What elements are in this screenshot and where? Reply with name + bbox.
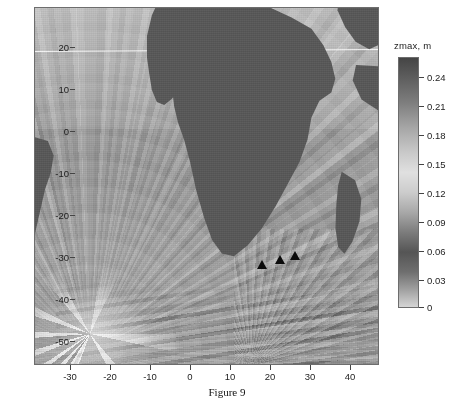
colorbar-tick-label: 0 xyxy=(427,302,432,313)
y-tick-label: 10 xyxy=(58,84,69,95)
colorbar-title: zmax, m xyxy=(394,40,431,51)
colorbar-tick-label: 0.18 xyxy=(427,130,446,141)
raster-grain-overlay xyxy=(35,8,378,364)
x-tick-label: 30 xyxy=(305,371,316,382)
y-tick-label: -30 xyxy=(55,252,69,263)
x-tick-label: 40 xyxy=(345,371,356,382)
x-tick-label: 20 xyxy=(265,371,276,382)
x-tick-label: 0 xyxy=(187,371,192,382)
station-marker-2 xyxy=(275,255,285,264)
map-plot-area xyxy=(34,7,379,365)
colorbar-tick-label: 0.24 xyxy=(427,72,446,83)
colorbar-tick-label: 0.21 xyxy=(427,101,446,112)
colorbar-tick-label: 0.12 xyxy=(427,188,446,199)
station-marker-1 xyxy=(257,260,267,269)
y-tick-label: 20 xyxy=(58,42,69,53)
x-tick-label: -20 xyxy=(103,371,117,382)
figure-caption: Figure 9 xyxy=(0,386,454,398)
y-tick-label: 0 xyxy=(64,126,69,137)
colorbar-gradient xyxy=(398,57,419,308)
colorbar-tick-label: 0.15 xyxy=(427,159,446,170)
figure-9-container: 20 10 0 -10 -20 -30 -40 -50 -30 -20 -10 … xyxy=(0,0,454,405)
x-tick-label: 10 xyxy=(225,371,236,382)
x-tick-label: -10 xyxy=(143,371,157,382)
colorbar-tick-label: 0.06 xyxy=(427,246,446,257)
colorbar-tick-label: 0.09 xyxy=(427,217,446,228)
x-tick-label: -30 xyxy=(63,371,77,382)
y-tick-label: -20 xyxy=(55,210,69,221)
y-tick-label: -10 xyxy=(55,168,69,179)
y-tick-label: -50 xyxy=(55,336,69,347)
y-tick-label: -40 xyxy=(55,294,69,305)
colorbar-tick-label: 0.03 xyxy=(427,275,446,286)
station-marker-3 xyxy=(290,251,300,260)
colorbar xyxy=(398,57,419,308)
